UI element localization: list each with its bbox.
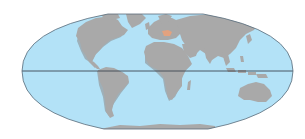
antarctica	[100, 124, 215, 139]
new-guinea	[256, 74, 268, 78]
world-map-svg	[0, 0, 305, 139]
new-zealand	[279, 100, 283, 108]
world-map	[0, 0, 305, 139]
